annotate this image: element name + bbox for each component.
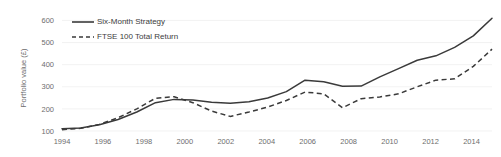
- x-tick-label: 2008: [340, 137, 357, 146]
- chart-canvas: 100200300400500600 199419961998200020022…: [0, 0, 501, 157]
- x-tick-label: 2004: [258, 137, 275, 146]
- x-tick-label: 2012: [422, 137, 439, 146]
- legend-label: Six-Month Strategy: [97, 17, 165, 26]
- x-axis-tick-labels: 1994199619982000200220042006200820102012…: [54, 137, 480, 146]
- series-line-dashed: [62, 49, 492, 130]
- y-tick-label: 100: [41, 127, 54, 136]
- x-tick-label: 1996: [95, 137, 112, 146]
- y-axis-tick-labels: 100200300400500600: [41, 16, 54, 136]
- portfolio-value-line-chart: 100200300400500600 199419961998200020022…: [0, 0, 501, 157]
- legend-label: FTSE 100 Total Return: [97, 32, 178, 41]
- x-tick-label: 2014: [463, 137, 480, 146]
- x-tick-label: 2002: [217, 137, 234, 146]
- x-tick-label: 2000: [177, 137, 194, 146]
- x-tick-label: 1994: [54, 137, 71, 146]
- y-tick-label: 400: [41, 60, 54, 69]
- y-axis-title: Portfolio value (£): [19, 48, 28, 107]
- y-tick-label: 300: [41, 82, 54, 91]
- y-tick-label: 500: [41, 38, 54, 47]
- x-tick-label: 1998: [136, 137, 153, 146]
- x-tick-label: 2006: [299, 137, 316, 146]
- y-tick-label: 200: [41, 105, 54, 114]
- y-tick-label: 600: [41, 16, 54, 25]
- x-tick-label: 2010: [381, 137, 398, 146]
